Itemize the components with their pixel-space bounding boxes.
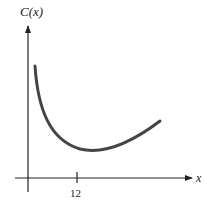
y-axis-label: C(x) <box>20 4 43 19</box>
chart: C(x) x 12 <box>0 0 213 207</box>
x-tick-label-12: 12 <box>70 187 81 199</box>
cost-curve <box>35 66 160 150</box>
x-axis-label: x <box>195 171 202 185</box>
